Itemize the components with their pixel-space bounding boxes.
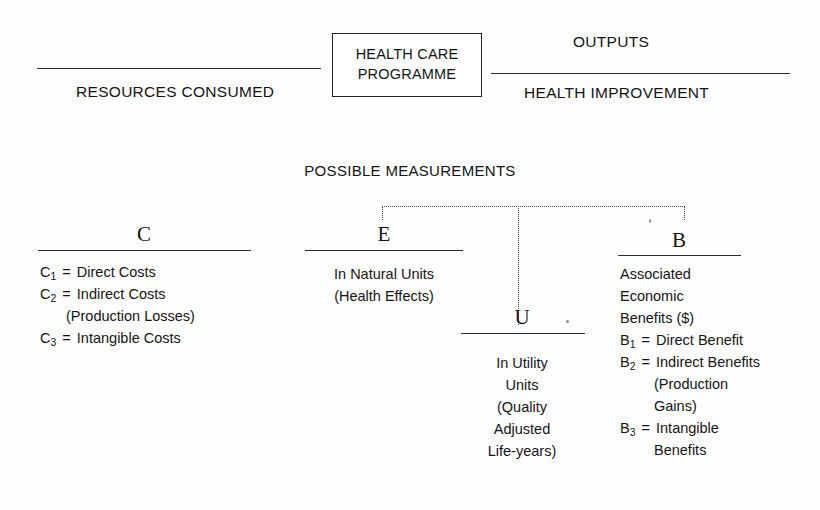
line-symbol: C1: [40, 264, 56, 280]
column-letter-benefits: B: [618, 228, 740, 253]
column-line: Gains): [620, 395, 820, 417]
line-text: Direct Costs: [77, 264, 156, 280]
line-text: (Production: [654, 376, 728, 392]
column-body-utility: In UtilityUnits(QualityAdjustedLife-year…: [458, 352, 586, 462]
line-equals-sign: =: [56, 264, 77, 280]
column-line: Associated: [620, 263, 820, 285]
line-text: Intangible: [656, 420, 719, 436]
column-line: Benefits ($): [620, 307, 820, 329]
column-line: C3 = Intangible Costs: [40, 327, 290, 349]
column-letter-effects: E: [324, 222, 444, 247]
outputs-label: OUTPUTS: [573, 33, 649, 51]
programme-box-line-1: HEALTH CARE: [356, 45, 459, 65]
column-line: Benefits: [620, 439, 820, 461]
line-symbol-subscript: 1: [630, 339, 636, 350]
column-body-benefits: AssociatedEconomicBenefits ($)B1 = Direc…: [620, 263, 820, 461]
column-line: C2 = Indirect Costs: [40, 283, 290, 305]
line-text: (Health Effects): [334, 288, 434, 304]
column-line: Life-years): [458, 440, 586, 462]
column-line: B1 = Direct Benefit: [620, 329, 820, 351]
column-rule-effects: [305, 250, 463, 251]
line-equals-sign: =: [635, 420, 656, 436]
column-line: In Natural Units: [303, 263, 465, 285]
bracket-stub-effects: [382, 206, 383, 220]
line-symbol-subscript: 3: [50, 337, 56, 348]
column-line: B2 = Indirect Benefits: [620, 351, 820, 373]
column-rule-costs: [38, 250, 251, 251]
bracket-stub-benefits: [684, 206, 685, 220]
line-symbol: C2: [40, 286, 56, 302]
line-equals-sign: =: [56, 286, 77, 302]
line-text: Associated: [620, 266, 691, 282]
possible-measurements-title: POSSIBLE MEASUREMENTS: [0, 162, 820, 179]
column-letter-utility: U: [462, 305, 582, 330]
line-text: Intangible Costs: [77, 330, 181, 346]
column-line: C1 = Direct Costs: [40, 261, 290, 283]
health-improvement-label: HEALTH IMPROVEMENT: [524, 84, 709, 102]
scan-speck: [649, 219, 651, 223]
line-symbol-subscript: 2: [630, 361, 636, 372]
column-line: (Health Effects): [303, 285, 465, 307]
line-symbol: B2: [620, 354, 635, 370]
column-body-costs: C1 = Direct CostsC2 = Indirect Costs(Pro…: [40, 261, 290, 349]
column-line: Adjusted: [458, 418, 586, 440]
line-text: Life-years): [488, 443, 557, 459]
column-line: (Production Losses): [40, 305, 290, 327]
line-text: Gains): [654, 398, 697, 414]
line-text: Units: [505, 377, 538, 393]
health-improvement-rule: [491, 73, 790, 74]
bracket-horizontal-connector: [382, 206, 685, 207]
line-symbol-subscript: 1: [50, 271, 56, 282]
programme-box-line-2: PROGRAMME: [358, 65, 456, 85]
line-text: Benefits ($): [620, 310, 694, 326]
line-symbol: C3: [40, 330, 56, 346]
line-text: Adjusted: [494, 421, 550, 437]
column-line: (Production: [620, 373, 820, 395]
line-text: Economic: [620, 288, 684, 304]
line-symbol-subscript: 3: [630, 427, 636, 438]
line-text: Indirect Costs: [77, 286, 166, 302]
column-body-effects: In Natural Units(Health Effects): [303, 263, 465, 307]
line-text: Direct Benefit: [656, 332, 743, 348]
column-rule-utility: [461, 333, 585, 334]
column-rule-benefits: [618, 255, 741, 256]
line-equals-sign: =: [56, 330, 77, 346]
line-equals-sign: =: [635, 354, 656, 370]
column-line: Units: [458, 374, 586, 396]
column-line: B3 = Intangible: [620, 417, 820, 439]
line-text: In Utility: [496, 355, 548, 371]
line-equals-sign: =: [635, 332, 656, 348]
line-symbol: B3: [620, 420, 635, 436]
column-letter-costs: C: [84, 222, 204, 247]
line-text: Indirect Benefits: [656, 354, 760, 370]
line-symbol-subscript: 2: [50, 293, 56, 304]
line-text: Benefits: [654, 442, 706, 458]
line-text: (Production Losses): [66, 308, 195, 324]
line-text: (Quality: [497, 399, 547, 415]
scan-speck: [566, 320, 569, 323]
health-care-programme-box: HEALTH CARE PROGRAMME: [332, 33, 482, 97]
resources-consumed-rule: [37, 68, 321, 69]
column-line: (Quality: [458, 396, 586, 418]
column-line: In Utility: [458, 352, 586, 374]
line-symbol: B1: [620, 332, 635, 348]
column-line: Economic: [620, 285, 820, 307]
line-text: In Natural Units: [334, 266, 434, 282]
resources-consumed-label: RESOURCES CONSUMED: [76, 83, 274, 101]
figure-canvas: RESOURCES CONSUMED HEALTH CARE PROGRAMME…: [0, 0, 820, 510]
